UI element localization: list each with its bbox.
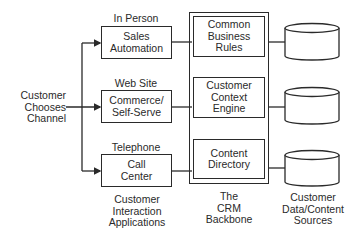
label-line: Channel [4,113,66,125]
caption-line: Customer [276,192,350,204]
call-center-box: CallCenter [101,154,172,187]
box-line: Engine [206,103,252,115]
box-line: Call [121,159,153,171]
label-line: Customer [4,90,66,102]
box-line: Commerce/ [109,95,163,107]
box-line: Directory [208,159,250,171]
caption-line: The [189,191,269,203]
caption-line: Sources [276,215,350,227]
channel-label-in-person: In Person [101,13,171,25]
database-icon [285,24,339,61]
box-line: Automation [110,43,163,55]
caption-line: Applications [96,217,178,229]
database-icon [285,88,339,125]
customer-chooses-channel-label: Customer Chooses Channel [4,90,66,125]
box-line: Sales [110,31,163,43]
commerce-self-serve-box: Commerce/Self-Serve [101,90,172,123]
channel-label-telephone: Telephone [101,142,171,154]
content-directory-box: ContentDirectory [193,139,265,179]
data-sources-caption: Customer Data/Content Sources [276,192,350,227]
box-line: Center [121,171,153,183]
applications-caption: Customer Interaction Applications [96,194,178,229]
backbone-caption: The CRM Backbone [189,191,269,226]
caption-line: Customer [96,194,178,206]
caption-line: Backbone [189,214,269,226]
box-line: Self-Serve [109,107,163,119]
database-icon [285,151,339,187]
database-cylinders [285,24,339,187]
customer-context-engine-box: CustomerContextEngine [193,77,265,118]
common-business-rules-box: CommonBusinessRules [193,16,265,57]
box-line: Rules [208,42,251,54]
channel-label-web-site: Web Site [101,78,171,90]
sales-automation-box: SalesAutomation [101,26,172,59]
